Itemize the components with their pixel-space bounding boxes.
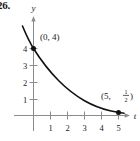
- y-tick-label-3: 3: [23, 61, 27, 71]
- y-tick-label-1: 1: [23, 95, 27, 105]
- x-axis-arrow-icon: [125, 113, 130, 117]
- point-label-5-half-numerator: 1: [125, 89, 128, 95]
- y-tick-label-4: 4: [23, 44, 28, 54]
- graph-plot: 4 3 2 1 1 2 3 4 5 y t (0, 4) (5, 1 2 ): [0, 0, 140, 141]
- x-axis: [14, 113, 130, 117]
- x-tick-label-4: 4: [99, 123, 104, 133]
- data-point-marker-5-half: [116, 110, 121, 115]
- point-label-5-half-denominator: 2: [125, 97, 128, 103]
- x-tick-label-3: 3: [82, 123, 86, 133]
- x-axis-label: t: [134, 111, 137, 121]
- x-tick-label-2: 2: [65, 123, 69, 133]
- y-axis-arrow-icon: [31, 16, 35, 22]
- y-axis-label: y: [31, 3, 36, 13]
- exercise-figure: 26. 4 3 2 1: [0, 0, 140, 141]
- point-label-5-half-prefix: (5,: [101, 91, 111, 101]
- x-tick-label-5: 5: [116, 123, 120, 133]
- point-label-5-half-suffix: ): [130, 91, 133, 101]
- data-point-marker-0-4: [31, 46, 36, 51]
- x-tick-label-1: 1: [48, 123, 52, 133]
- y-axis: [31, 16, 35, 131]
- y-tick-label-2: 2: [23, 78, 27, 88]
- point-label-5-half: (5, 1 2 ): [101, 89, 133, 103]
- point-label-0-4: (0, 4): [40, 32, 60, 42]
